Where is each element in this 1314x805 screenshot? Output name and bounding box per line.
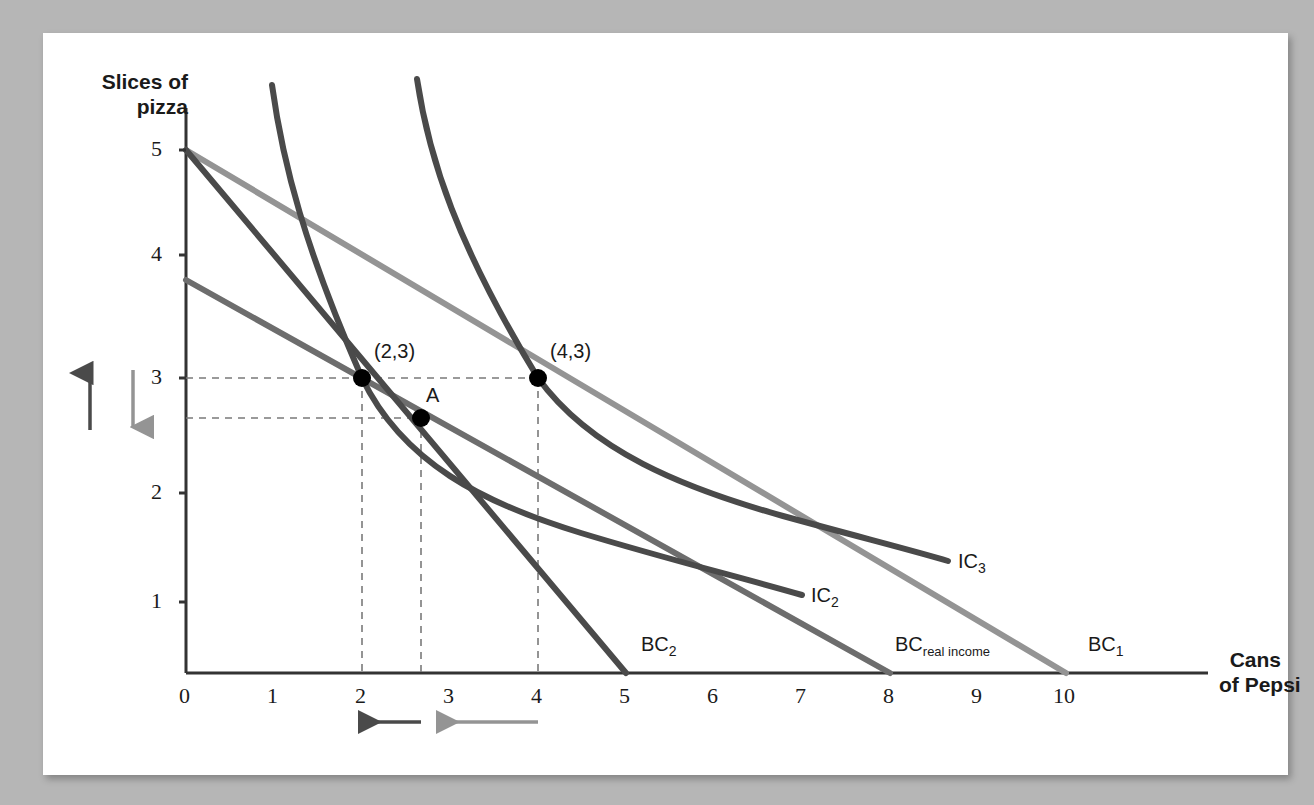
x-tick-8: 8 xyxy=(883,683,894,709)
curve-label-bc2-subscript: 2 xyxy=(669,643,677,659)
curve-label-ic3-text: IC xyxy=(958,550,978,572)
x-axis-title-line2: of Pepsi xyxy=(1219,672,1281,697)
point-label-a: A xyxy=(426,384,439,407)
y-tick-5: 5 xyxy=(151,136,162,162)
y-tick-2: 2 xyxy=(151,479,162,505)
point-a-dot xyxy=(412,409,430,427)
chart-plot-area xyxy=(43,33,1288,775)
point-4-3-dot xyxy=(529,369,547,387)
curve-label-bc1-subscript: 1 xyxy=(1116,643,1124,659)
x-tick-0: 0 xyxy=(179,683,190,709)
effect-arrows xyxy=(90,370,538,722)
y-tick-3: 3 xyxy=(151,364,162,390)
y-tick-1: 1 xyxy=(151,588,162,614)
guide-dashed-lines xyxy=(186,378,538,673)
curve-label-bc-real-income: BCreal income xyxy=(895,633,990,659)
x-tick-5: 5 xyxy=(619,683,630,709)
curve-label-ic2: IC2 xyxy=(811,584,839,610)
y-tick-4: 4 xyxy=(151,241,162,267)
x-tick-1: 1 xyxy=(267,683,278,709)
curve-label-bc2: BC2 xyxy=(641,633,677,659)
indifference-curve-ic2 xyxy=(272,85,802,595)
indifference-curve-ic3 xyxy=(417,79,948,561)
figure-card: Slices of pizza Cans of Pepsi 5 4 3 2 1 … xyxy=(43,33,1288,775)
y-axis-title-line2: pizza xyxy=(98,94,188,119)
point-label-4-3: (4,3) xyxy=(550,340,591,363)
x-tick-4: 4 xyxy=(531,683,542,709)
y-axis-title: Slices of pizza xyxy=(98,69,188,119)
x-tick-9: 9 xyxy=(971,683,982,709)
point-label-2-3: (2,3) xyxy=(374,340,415,363)
curve-label-ic2-text: IC xyxy=(811,584,831,606)
budget-constraint-bc2 xyxy=(186,150,626,673)
y-axis-title-line1: Slices of xyxy=(98,69,188,94)
curve-label-bc-real-income-text: BC xyxy=(895,633,923,655)
x-axis-title-line1: Cans xyxy=(1219,647,1281,672)
x-axis-title: Cans of Pepsi xyxy=(1219,647,1281,697)
curve-label-ic2-subscript: 2 xyxy=(831,594,839,610)
curve-label-bc2-text: BC xyxy=(641,633,669,655)
x-tick-3: 3 xyxy=(443,683,454,709)
axis-lines xyxy=(186,108,1208,673)
x-tick-10: 10 xyxy=(1053,683,1075,709)
curve-label-bc-real-income-subscript: real income xyxy=(923,644,990,659)
curve-label-ic3-subscript: 3 xyxy=(978,560,986,576)
x-tick-7: 7 xyxy=(795,683,806,709)
curve-label-ic3: IC3 xyxy=(958,550,986,576)
budget-constraint-bc1 xyxy=(186,150,1066,673)
point-2-3-dot xyxy=(353,369,371,387)
curve-label-bc1-text: BC xyxy=(1088,633,1116,655)
x-tick-2: 2 xyxy=(355,683,366,709)
curve-label-bc1: BC1 xyxy=(1088,633,1124,659)
x-tick-6: 6 xyxy=(707,683,718,709)
